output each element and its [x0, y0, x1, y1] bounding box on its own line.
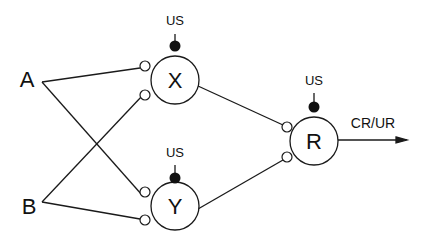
edge-y-r — [198, 160, 283, 209]
port-r-top — [282, 122, 292, 132]
port-x-top — [140, 61, 150, 71]
us-dot-y — [170, 173, 181, 184]
port-x-bottom — [140, 90, 150, 100]
output-label: CR/UR — [351, 115, 395, 131]
edge-x-r — [198, 86, 283, 125]
us-label-r: US — [305, 73, 323, 88]
us-dot-x — [170, 41, 181, 52]
input-label-a: A — [20, 67, 35, 92]
edge-b-y — [42, 202, 140, 219]
us-label-y: US — [166, 145, 184, 160]
node-label-y: Y — [168, 194, 183, 219]
node-label-r: R — [306, 129, 322, 154]
arrow-head-icon — [396, 137, 407, 143]
network-diagram: A B X Y R US US US CR/UR — [0, 0, 425, 243]
edge-b-x — [42, 96, 142, 202]
node-label-x: X — [168, 68, 183, 93]
edge-a-y — [42, 82, 142, 195]
input-label-b: B — [22, 194, 37, 219]
edge-a-x — [42, 68, 140, 82]
port-y-top — [140, 187, 150, 197]
us-dot-r — [309, 102, 320, 113]
us-label-x: US — [166, 13, 184, 28]
port-y-bottom — [140, 215, 150, 225]
port-r-bottom — [282, 152, 292, 162]
